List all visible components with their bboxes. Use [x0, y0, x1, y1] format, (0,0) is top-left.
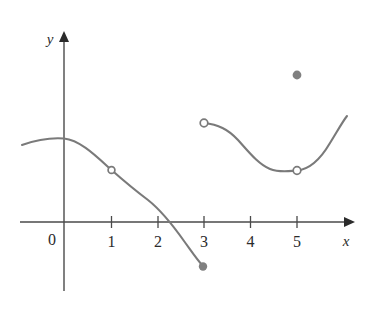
- x-tick-label-2: 2: [154, 233, 162, 250]
- x-tick-label-5: 5: [293, 233, 301, 250]
- y-axis-label: y: [45, 31, 54, 47]
- open-points-group: [108, 119, 301, 174]
- labels-group: y x 0 1 2 3 4 5: [45, 31, 350, 250]
- y-axis-arrow-icon: [59, 31, 69, 42]
- origin-label: 0: [48, 231, 56, 248]
- open-circle-x3-right: [200, 119, 208, 127]
- axes-group: [20, 31, 355, 291]
- x-axis-label: x: [342, 233, 350, 249]
- math-graph-figure: y x 0 1 2 3 4 5: [0, 0, 382, 314]
- open-circle-x1: [108, 167, 115, 174]
- open-circle-x5: [293, 167, 301, 175]
- x-tick-label-1: 1: [108, 233, 116, 250]
- filled-dot-x5: [293, 71, 302, 80]
- x-tick-label-4: 4: [247, 233, 255, 250]
- right-branch-curve: [204, 116, 347, 171]
- coordinate-plane-svg: y x 0 1 2 3 4 5: [0, 0, 382, 314]
- x-tick-label-3: 3: [200, 233, 208, 250]
- filled-dot-x3: [199, 262, 207, 270]
- x-axis-arrow-icon: [344, 217, 355, 227]
